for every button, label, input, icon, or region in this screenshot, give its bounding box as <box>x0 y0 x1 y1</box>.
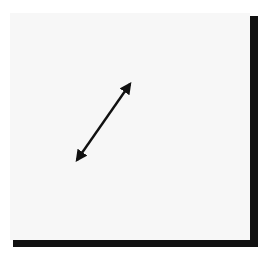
edge-thema <box>77 84 130 160</box>
edge-methode <box>0 0 190 103</box>
double-arrow-icon <box>77 84 130 160</box>
diagram-frame <box>0 0 271 257</box>
relationship-diagram <box>0 0 271 257</box>
